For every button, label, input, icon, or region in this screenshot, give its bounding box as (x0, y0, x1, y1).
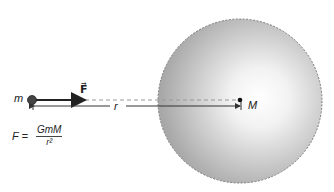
small-mass-ball (28, 96, 37, 105)
distance-label: r (114, 100, 118, 112)
small-mass-label: m (14, 92, 23, 104)
formula-fraction: GmM r² (36, 124, 62, 148)
large-mass-label: M (248, 99, 257, 111)
formula-denominator: r² (46, 137, 52, 148)
large-mass-center-dot (238, 98, 243, 103)
formula-lhs: F = (12, 130, 28, 142)
diagram-canvas (0, 0, 334, 192)
force-label: F⃗ (80, 83, 88, 96)
formula-numerator: GmM (36, 124, 62, 137)
